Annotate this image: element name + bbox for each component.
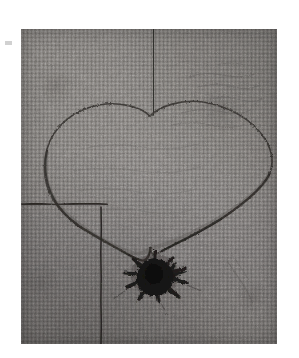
heart-outline <box>45 101 272 261</box>
image-canvas <box>0 0 299 358</box>
drawn-marks-layer <box>21 29 277 344</box>
faint-diagonal-scuff <box>227 259 253 303</box>
star-burst-blot <box>121 251 189 305</box>
heart-outline-halo <box>45 151 269 253</box>
stray-margin-mark <box>5 41 12 45</box>
canvas-plate <box>21 29 277 344</box>
faint-scribble-upper-right <box>171 63 263 128</box>
